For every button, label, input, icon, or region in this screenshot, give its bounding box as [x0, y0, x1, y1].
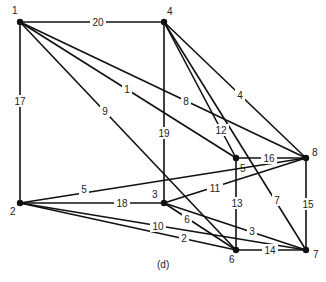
edge-weight-label: 4: [237, 90, 243, 101]
edge-weight-label: 3: [249, 226, 255, 237]
edge-weight-label: 1: [124, 84, 130, 95]
node-label: 1: [12, 5, 18, 16]
node-3: [161, 200, 167, 206]
node-8: [303, 155, 309, 161]
node-1: [17, 19, 23, 25]
figure-caption: (d): [157, 259, 169, 270]
edge-weight-label: 5: [81, 184, 87, 195]
edge-weight-label: 2: [181, 233, 187, 244]
edge-weight-label: 14: [264, 245, 276, 256]
edge-weight-label: 13: [231, 198, 243, 209]
edge-weight-label: 11: [210, 183, 221, 194]
edge-weight-label: 20: [92, 17, 104, 28]
node-label: 7: [313, 249, 319, 260]
node-label: 2: [10, 206, 16, 217]
node-label: 5: [240, 163, 246, 174]
node-label: 8: [312, 147, 318, 158]
node-label: 6: [229, 254, 235, 265]
edge-weight-label: 16: [263, 153, 275, 164]
edge-4-5: [164, 22, 236, 158]
graph-diagram: 2017189191274518102116316131514 12345678…: [0, 0, 326, 282]
edge-2-6: [20, 203, 236, 250]
node-5: [233, 155, 239, 161]
node-2: [17, 200, 23, 206]
edge-weight-label: 15: [302, 199, 314, 210]
edge-weight-label: 6: [184, 214, 190, 225]
edge-weight-label: 12: [215, 125, 227, 136]
edge-3-8: [164, 158, 306, 203]
edge-weight-label: 17: [14, 96, 26, 107]
edge-weight-label: 19: [158, 128, 170, 139]
node-6: [233, 247, 239, 253]
node-label: 4: [167, 6, 173, 17]
node-7: [303, 247, 309, 253]
node-4: [161, 19, 167, 25]
edge-weight-label: 18: [116, 198, 128, 209]
node-label: 3: [152, 189, 158, 200]
edge-weight-label: 10: [152, 221, 164, 232]
edge-weight-label: 8: [183, 96, 189, 107]
edge-weight-label: 7: [274, 195, 280, 206]
edge-weight-label: 9: [102, 106, 108, 117]
